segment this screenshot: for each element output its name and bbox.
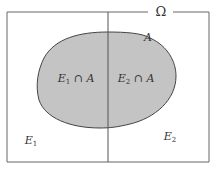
universe-label: Ω: [156, 4, 167, 19]
venn-diagram: Ω A E1 ∩ A E2 ∩ A E1 E2: [0, 0, 217, 169]
e2-cap-a-label: E2 ∩ A: [117, 72, 155, 86]
e1-label: E1: [24, 134, 38, 148]
e1-cap-a-label: E1 ∩ A: [57, 72, 95, 86]
e2-label: E2: [163, 130, 177, 144]
set-a-label: A: [143, 31, 152, 44]
